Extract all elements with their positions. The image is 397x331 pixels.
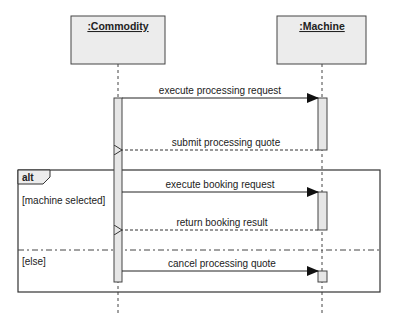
message-return-booking-result[interactable]: return booking result: [122, 217, 318, 230]
activation-commodity[interactable]: [114, 98, 122, 282]
sequence-diagram: :Commodity :Machine alt [machine selecte…: [0, 0, 397, 331]
message-execute-booking-request[interactable]: execute booking request: [122, 179, 318, 192]
message-label: execute booking request: [166, 179, 275, 190]
message-label: execute processing request: [159, 85, 282, 96]
activation-machine-1[interactable]: [318, 98, 327, 150]
lifeline-label-commodity: :Commodity: [87, 20, 148, 32]
message-submit-processing-quote[interactable]: submit processing quote: [122, 137, 318, 150]
message-label: submit processing quote: [172, 137, 281, 148]
lifeline-machine: :Machine: [277, 16, 366, 315]
guard-else: [else]: [22, 256, 46, 267]
guard-machine-selected: [machine selected]: [22, 195, 106, 206]
message-cancel-processing-quote[interactable]: cancel processing quote: [122, 258, 318, 271]
activation-machine-3[interactable]: [318, 271, 327, 282]
message-label: return booking result: [176, 217, 267, 228]
fragment-operator-label: alt: [22, 172, 34, 183]
activation-machine-2[interactable]: [318, 192, 327, 230]
message-label: cancel processing quote: [168, 258, 276, 269]
message-execute-processing-request[interactable]: execute processing request: [122, 85, 318, 98]
lifeline-label-machine: :Machine: [299, 20, 345, 32]
